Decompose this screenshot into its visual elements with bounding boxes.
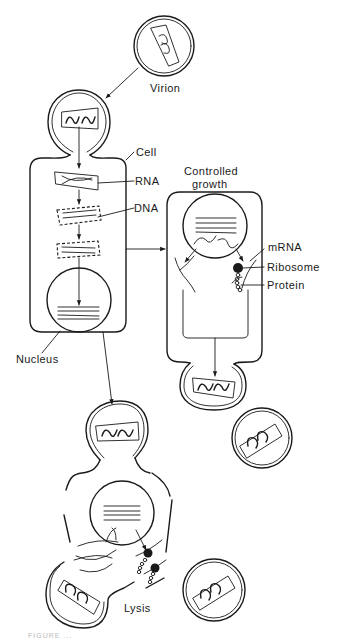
rna-label: RNA — [135, 175, 160, 187]
arrow-to-lysis — [103, 332, 112, 404]
ribosome-icon-lysis-1 — [144, 549, 153, 558]
mrna-label: mRNA — [268, 241, 302, 253]
controlled-growth-cell — [167, 192, 262, 410]
infected-cell — [30, 90, 126, 332]
controlled-growth-label-line2: growth — [192, 178, 227, 190]
virion-top: Virion — [134, 16, 194, 94]
dna-label: DNA — [134, 202, 159, 214]
protein-chain-icon — [235, 273, 242, 292]
ribosome-icon — [233, 263, 243, 273]
virion-label: Virion — [150, 82, 180, 94]
lysing-cell — [46, 401, 172, 628]
virion-free-right — [232, 408, 292, 468]
lysis-label: Lysis — [124, 602, 151, 614]
viral-capsid-icon — [151, 25, 179, 66]
viral-lifecycle-diagram: Virion Cell RNA DNA — [0, 0, 340, 643]
cell-label: Cell — [136, 146, 157, 158]
virion-free-lower-right — [183, 559, 245, 621]
arrow-virion-to-cell — [106, 68, 138, 98]
figure-caption-partial: FIGURE ... — [28, 632, 72, 639]
controlled-growth-label-line1: Controlled — [184, 165, 238, 177]
ribosome-label: Ribosome — [267, 261, 320, 273]
protein-label: Protein — [267, 279, 305, 291]
ribosome-icon-lysis-2 — [151, 564, 160, 573]
nucleus-label: Nucleus — [16, 353, 59, 365]
